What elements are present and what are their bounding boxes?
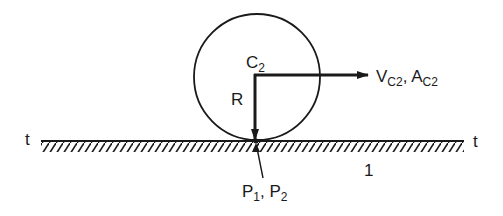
- tangent-label-right: t: [473, 133, 478, 150]
- p2-symbol: P: [269, 182, 280, 201]
- disk-circle: [194, 14, 320, 140]
- velocity-subscript: C2: [387, 75, 402, 89]
- center-label-sub: 2: [258, 61, 265, 75]
- acceleration-subscript: C2: [423, 75, 438, 89]
- ground-label: 1: [364, 162, 373, 179]
- ground-hatching: [41, 142, 464, 152]
- velocity-acceleration-label: VC2, AC2: [376, 68, 438, 85]
- velocity-symbol: V: [376, 67, 387, 86]
- vector-separator: ,: [403, 67, 412, 86]
- tangent-label-left: t: [25, 131, 30, 148]
- radius-label: R: [231, 91, 243, 108]
- p2-subscript: 2: [281, 190, 288, 204]
- center-label: C2: [246, 54, 265, 71]
- acceleration-symbol: A: [411, 67, 422, 86]
- contact-point: [254, 139, 259, 144]
- center-label-main: C: [246, 53, 258, 72]
- contact-leader-line: [257, 148, 263, 178]
- p1-symbol: P: [242, 182, 253, 201]
- contact-points-label: P1, P2: [242, 183, 288, 200]
